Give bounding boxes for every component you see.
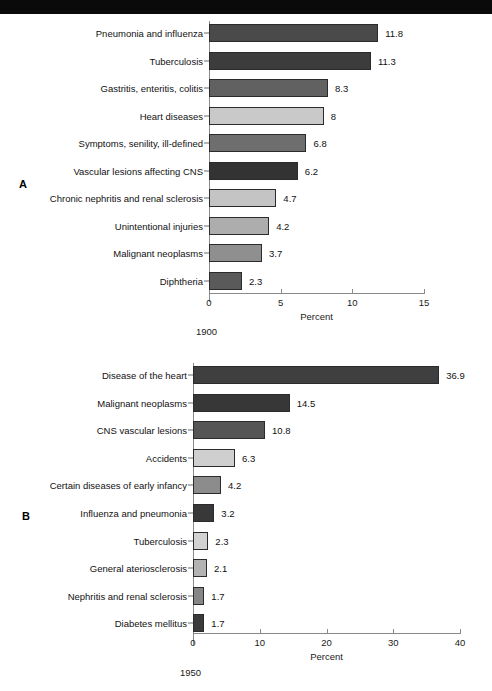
bar-value-label: 8 (331, 110, 336, 121)
x-axis-title: Percent (300, 311, 333, 322)
bar (193, 476, 221, 494)
bar (193, 421, 265, 439)
bar-value-label: 4.7 (283, 193, 296, 204)
x-axis-tick-label: 10 (347, 297, 358, 308)
bar (209, 134, 306, 152)
bar (209, 272, 242, 290)
bar (209, 107, 324, 125)
x-axis-line (209, 293, 425, 294)
bar (193, 504, 214, 522)
x-axis-tick-label: 0 (206, 297, 211, 308)
bar-value-label: 2.1 (214, 563, 227, 574)
panel-a-plot: 051015Percent1900Pneumonia and influenza… (0, 0, 492, 345)
bar (193, 532, 208, 550)
bar-value-label: 1.7 (211, 590, 224, 601)
x-axis-title: Percent (310, 651, 343, 662)
x-axis-tick (327, 629, 328, 633)
category-label: Certain diseases of early infancy (50, 480, 187, 491)
bar (209, 162, 298, 180)
x-axis-tick-label: 40 (455, 637, 466, 648)
category-label: Tuberculosis (149, 55, 203, 66)
bar-value-label: 11.3 (378, 55, 396, 66)
category-label: Malignant neoplasms (113, 248, 203, 259)
category-label: Pneumonia and influenza (96, 28, 203, 39)
figure-page: LOWEST TEN LEADING CAUSES OF DEATH IN TH… (0, 0, 492, 691)
panel-a: A 051015Percent1900Pneumonia and influen… (0, 0, 492, 345)
x-axis-tick (260, 629, 261, 633)
x-axis-tick (393, 629, 394, 633)
x-axis-tick (460, 629, 461, 633)
category-label: Tuberculosis (133, 535, 187, 546)
bar-value-label: 36.9 (446, 370, 465, 381)
bar-value-label: 2.3 (215, 535, 228, 546)
x-axis-tick (352, 289, 353, 293)
x-axis-tick (209, 289, 210, 293)
bar-value-label: 3.7 (269, 248, 282, 259)
bar (193, 394, 290, 412)
category-label: Heart diseases (140, 110, 203, 121)
bar (193, 449, 235, 467)
bar-value-label: 10.8 (272, 425, 291, 436)
bar (209, 24, 378, 42)
category-label: Unintentional injuries (115, 220, 203, 231)
bar (193, 587, 204, 605)
category-label: Symptoms, senility, ill-defined (79, 138, 203, 149)
bar (209, 52, 371, 70)
bar (209, 244, 262, 262)
bar-value-label: 6.8 (313, 138, 326, 149)
x-axis-tick-label: 30 (388, 637, 399, 648)
bar (193, 366, 439, 384)
bar (209, 79, 328, 97)
category-label: Vascular lesions affecting CNS (73, 165, 203, 176)
x-axis-tick (281, 289, 282, 293)
bar (209, 217, 269, 235)
category-label: Accidents (146, 452, 187, 463)
bar-value-label: 4.2 (228, 480, 241, 491)
bar (209, 189, 276, 207)
category-label: Diabetes mellitus (115, 618, 187, 629)
x-axis-tick-label: 0 (190, 637, 195, 648)
category-label: Malignant neoplasms (97, 397, 187, 408)
x-axis-tick-label: 10 (254, 637, 265, 648)
x-axis-tick-label: 20 (321, 637, 332, 648)
panel-caption: 1900 (196, 326, 217, 337)
panel-b-plot: 010203040Percent1950Disease of the heart… (0, 345, 492, 691)
bar-value-label: 3.2 (221, 508, 234, 519)
category-label: Nephritis and renal sclerosis (68, 590, 187, 601)
x-axis-tick-label: 5 (278, 297, 283, 308)
bar-value-label: 1.7 (211, 618, 224, 629)
bar-value-label: 4.2 (276, 220, 289, 231)
bar-value-label: 14.5 (297, 397, 316, 408)
category-label: Disease of the heart (102, 370, 187, 381)
panel-caption: 1950 (180, 667, 201, 678)
category-label: Diphtheria (160, 275, 203, 286)
bar-value-label: 6.2 (305, 165, 318, 176)
bar (193, 559, 207, 577)
bar-value-label: 11.8 (385, 28, 403, 39)
category-label: General ateriosclerosis (90, 563, 187, 574)
category-label: Influenza and pneumonia (80, 508, 187, 519)
bar (193, 614, 204, 632)
panel-b: B 010203040Percent1950Disease of the hea… (0, 345, 492, 691)
category-label: CNS vascular lesions (97, 425, 187, 436)
bar-value-label: 8.3 (335, 83, 348, 94)
category-label: Chronic nephritis and renal sclerosis (50, 193, 203, 204)
bar-value-label: 6.3 (242, 452, 255, 463)
x-axis-tick (424, 289, 425, 293)
x-axis-tick-label: 15 (419, 297, 430, 308)
category-label: Gastritis, enteritis, colitis (101, 83, 203, 94)
bar-value-label: 2.3 (249, 275, 262, 286)
x-axis-line (193, 633, 461, 634)
